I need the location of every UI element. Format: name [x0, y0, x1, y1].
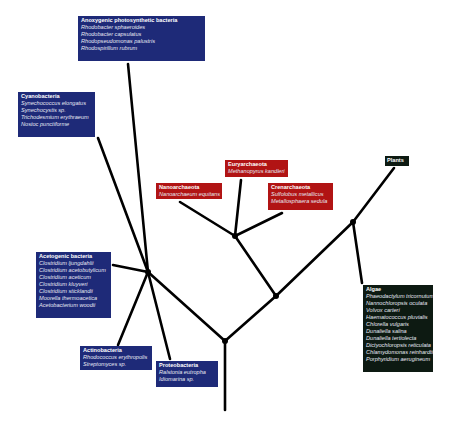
group-title: Actinobacteria: [83, 347, 149, 354]
species-label: Methanopyrus kandleri: [228, 168, 285, 175]
group-anoxygenic: Anoxygenic photosynthetic bacteria Rhodo…: [78, 16, 205, 61]
group-proteobacteria: Proteobacteria Ralstonia eutropha Idioma…: [156, 361, 218, 387]
branch-nanoarchaeota: [180, 202, 235, 236]
species-label: Trichodesmium erythraeum: [21, 114, 92, 121]
group-title: Acetogenic bacteria: [39, 253, 108, 260]
species-label: Clostridium ljungdahlii: [39, 260, 108, 267]
species-label: Ralstonia eutropha: [159, 369, 215, 376]
species-label: Synechocystis sp.: [21, 107, 92, 114]
group-title: Cyanobacteria: [21, 93, 92, 100]
branch-crenarchaeota: [235, 213, 282, 236]
species-label: Moorella thermoacetica: [39, 295, 108, 302]
species-label: Rhodobacter sphaeroides: [81, 24, 202, 31]
branch-plants: [353, 168, 394, 222]
species-label: Nanoarchaeum equitans: [159, 191, 219, 198]
group-title: Proteobacteria: [159, 362, 215, 369]
species-label: Acetobacterium woodii: [39, 302, 108, 309]
species-label: Clostridium aceticum: [39, 274, 108, 281]
species-label: Clostridium sticklandii: [39, 288, 108, 295]
species-label: Dunaliella tertiolecta: [366, 335, 430, 342]
species-label: Dictyochloropsis reticulata: [366, 342, 430, 349]
branch-archaea: [235, 236, 276, 296]
branch-acetogenic: [113, 265, 148, 272]
group-algae: Algae Phaeodactylum tricornutum Nannochl…: [363, 285, 433, 372]
species-label: Rhodobacter capsulatus: [81, 31, 202, 38]
group-plants: Plants: [385, 156, 409, 166]
branch-actinobacteria: [118, 272, 148, 345]
species-label: Synechococcus elongatus: [21, 100, 92, 107]
species-label: Streptomyces sp.: [83, 361, 149, 368]
species-label: Idiomarina sp.: [159, 376, 215, 383]
branch-euryarchaeota: [235, 180, 241, 236]
species-label: Dunaliella salina: [366, 328, 430, 335]
group-title: Crenarchaeota: [271, 184, 330, 191]
group-title: Euryarchaeota: [228, 161, 285, 168]
species-label: Volvox carteri: [366, 307, 430, 314]
species-label: Porphyridium aerugineum: [366, 356, 430, 363]
node-eukarya: [350, 219, 356, 225]
node-bacteria: [145, 269, 151, 275]
group-title: Nanoarchaeota: [159, 184, 219, 191]
group-title: Anoxygenic photosynthetic bacteria: [81, 17, 202, 24]
species-label: Chlamydomonas reinhardtii: [366, 349, 430, 356]
branch-algae: [353, 222, 362, 283]
group-acetogenic: Acetogenic bacteria Clostridium ljungdah…: [36, 252, 111, 318]
group-nanoarchaeota: Nanoarchaeota Nanoarchaeum equitans: [156, 183, 222, 199]
species-label: Rhodopseudomonas palustris: [81, 38, 202, 45]
species-label: Chlorella vulgaris: [366, 321, 430, 328]
species-label: Sulfolobus metallicus: [271, 191, 330, 198]
species-label: Nannochloropsis oculata: [366, 300, 430, 307]
branch-bacteria: [148, 272, 225, 341]
species-label: Clostridium kluyveri: [39, 281, 108, 288]
species-label: Clostridium acetobutylicum: [39, 267, 108, 274]
group-actinobacteria: Actinobacteria Rhodococcus erythropolis …: [80, 346, 152, 370]
node-arch-euk: [273, 293, 279, 299]
branch-eukarya: [276, 222, 353, 296]
group-title: Plants: [387, 157, 407, 164]
species-label: Phaeodactylum tricornutum: [366, 293, 430, 300]
node-archaea: [232, 233, 238, 239]
branch-anoxygenic: [128, 64, 148, 272]
group-title: Algae: [366, 286, 430, 293]
group-cyanobacteria: Cyanobacteria Synechococcus elongatus Sy…: [18, 92, 95, 137]
species-label: Nostoc punctiforme: [21, 121, 92, 128]
species-label: Rhodospirillum rubrum: [81, 45, 202, 52]
species-label: Metallosphaera sedula: [271, 198, 330, 205]
branch-arch-euk: [225, 296, 276, 341]
node-root: [222, 338, 228, 344]
group-euryarchaeota: Euryarchaeota Methanopyrus kandleri: [225, 160, 288, 177]
group-crenarchaeota: Crenarchaeota Sulfolobus metallicus Meta…: [268, 183, 333, 210]
species-label: Haematococcus pluvialis: [366, 314, 430, 321]
species-label: Rhodococcus erythropolis: [83, 354, 149, 361]
